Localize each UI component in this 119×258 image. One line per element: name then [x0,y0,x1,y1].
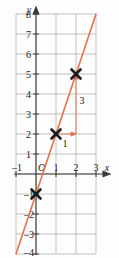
x-tick-label-2: 2 [74,162,79,173]
rise-annotation-label: 3 [80,95,85,106]
graph-canvas: 8 7 6 5 4 3 2 1 –1 –2 –3 –4 –1 1 2 3 O y… [0,0,119,258]
x-tick-label-3: 3 [94,162,99,173]
x-tick-label-1: 1 [54,162,59,173]
x-tick-label-neg1: –1 [11,162,22,173]
y-tick-label-7: 7 [26,29,31,40]
y-tick-label-5: 5 [26,69,31,80]
y-tick-label-1: 1 [26,149,31,160]
y-axis-label: y [26,4,32,15]
y-tick-label-6: 6 [26,49,31,60]
run-annotation-label: 1 [63,138,68,149]
x-axis-label: x [104,162,110,173]
y-tick-label-neg4: –4 [23,247,34,258]
y-tick-label-3: 3 [26,109,31,120]
y-tick-label-2: 2 [26,129,31,140]
coordinate-graph: 8 7 6 5 4 3 2 1 –1 –2 –3 –4 –1 1 2 3 O y… [0,0,119,258]
y-tick-label-4: 4 [26,89,31,100]
